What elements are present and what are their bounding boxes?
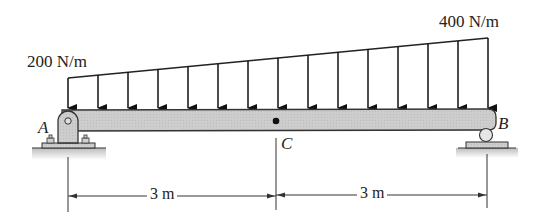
point-a-label: A <box>38 118 48 138</box>
point-c-marker <box>273 118 280 125</box>
beam-diagram <box>0 0 539 223</box>
ground-a <box>32 148 106 160</box>
load-arrows <box>68 38 488 108</box>
roller-icon <box>480 129 493 142</box>
pin-icon <box>65 118 71 124</box>
support-a-baseplate <box>42 143 95 148</box>
left-load-intensity-label: 200 N/m <box>27 52 87 72</box>
point-c-label: C <box>281 134 292 154</box>
support-a-pin-bracket <box>58 111 78 143</box>
dimension-label-cb: 3 m <box>357 184 387 202</box>
right-load-intensity-label: 400 N/m <box>439 12 499 32</box>
point-b-label: B <box>498 114 508 134</box>
support-b-plate <box>466 142 508 148</box>
dimension-label-ac: 3 m <box>147 185 177 203</box>
